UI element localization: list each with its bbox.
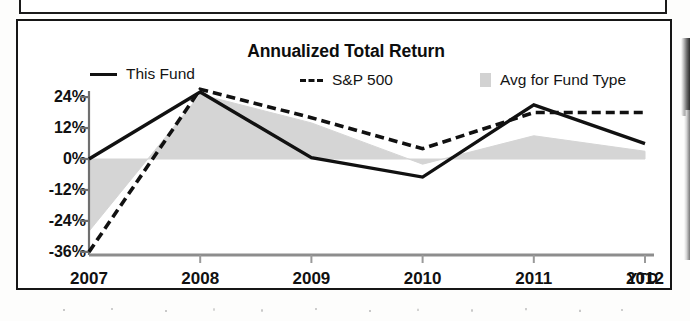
- scan-edge-shadow: [681, 38, 690, 116]
- chart-panel: Annualized Total Return This Fund S&P 50…: [16, 19, 672, 290]
- plot-area: [18, 21, 674, 292]
- x-axis-tick-label: 2010: [404, 269, 442, 289]
- x-axis-tick-label: 2009: [292, 269, 330, 289]
- x-axis-tick-label: 2007: [70, 269, 108, 289]
- clipped-upper-panel: [19, 0, 667, 14]
- scan-speckle-artifact: [40, 305, 640, 315]
- x-axis-tick-label: 2012: [626, 269, 664, 289]
- line-chart-svg: [18, 21, 674, 292]
- x-axis-labels: YTD 200720082009201020112012: [18, 269, 674, 297]
- scanned-page: Annualized Total Return This Fund S&P 50…: [0, 0, 690, 321]
- x-axis-tick-label: 2011: [515, 269, 552, 289]
- x-axis-tick-label: 2008: [181, 269, 219, 289]
- scan-edge-shadow-lower: [684, 110, 690, 260]
